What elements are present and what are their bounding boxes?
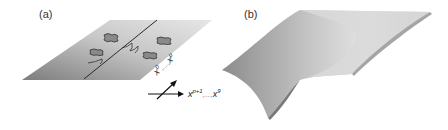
panel-b-surface [222, 10, 432, 120]
axis-arrows [148, 80, 184, 99]
figure-graphics [0, 0, 448, 130]
axis-label-horizontal: xp+1,....,x9 [188, 88, 221, 99]
panel-a-label: (a) [39, 8, 52, 20]
figure: (a) (b) x0,....,xp xp+1,....,x9 [0, 0, 448, 130]
panel-b-label: (b) [244, 8, 257, 20]
panel-a-plane [22, 20, 212, 80]
